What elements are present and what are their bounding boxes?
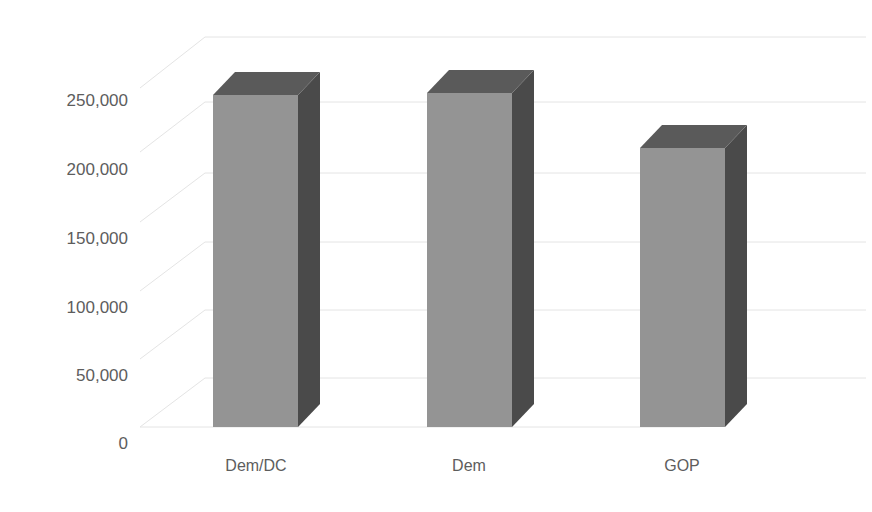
bar-gop-front [640, 148, 725, 427]
diagonal-connector-150000 [140, 242, 205, 291]
diagonal-connector-50000 [140, 378, 205, 427]
bar-dem-side [512, 70, 534, 427]
gridlines-sidewall-diagonals [140, 37, 205, 427]
y-tick-label-200000: 200,000 [67, 160, 128, 179]
bar-dem-front [427, 93, 512, 427]
y-tick-label-100000: 100,000 [67, 298, 128, 317]
x-tick-label-gop: GOP [664, 457, 700, 474]
y-axis-tick-labels: 250,000 200,000 150,000 100,000 50,000 0 [67, 91, 128, 453]
y-tick-label-150000: 150,000 [67, 229, 128, 248]
diagonal-connector-top [140, 37, 205, 88]
bar-chart-3d: 250,000 200,000 150,000 100,000 50,000 0… [0, 0, 872, 512]
x-axis-category-labels: Dem/DC Dem GOP [225, 457, 699, 474]
diagonal-connector-100000 [140, 310, 205, 359]
x-tick-label-dem-dc: Dem/DC [225, 457, 286, 474]
y-tick-label-50000: 50,000 [76, 366, 128, 385]
x-tick-label-dem: Dem [452, 457, 486, 474]
bar-dem-dc-side [298, 72, 320, 427]
bar-dem[interactable] [427, 70, 534, 427]
bar-dem-dc-front [213, 95, 298, 427]
bar-gop[interactable] [640, 125, 747, 427]
bar-gop-side [725, 125, 747, 427]
y-tick-label-0: 0 [119, 434, 128, 453]
diagonal-connector-200000 [140, 173, 205, 222]
bar-dem-dc[interactable] [213, 72, 320, 427]
y-tick-label-250000: 250,000 [67, 91, 128, 110]
diagonal-connector-250000 [140, 102, 205, 152]
chart-container: 250,000 200,000 150,000 100,000 50,000 0… [0, 0, 872, 512]
